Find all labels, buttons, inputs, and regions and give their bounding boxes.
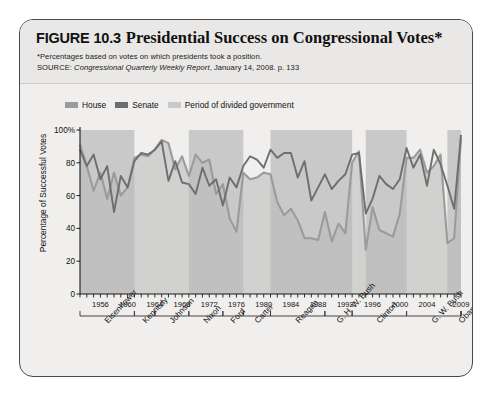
x-tick-label: 2004 [419,300,436,309]
x-tick-label: 1984 [282,300,299,309]
chart-plot-area: Percentage of Successful Votes 020406080… [20,20,473,377]
x-tick-label: 1996 [364,300,381,309]
x-tick-label: 1956 [92,300,109,309]
figure-card: FIGURE 10.3Presidential Success on Congr… [19,19,473,377]
chart-svg [20,20,473,377]
